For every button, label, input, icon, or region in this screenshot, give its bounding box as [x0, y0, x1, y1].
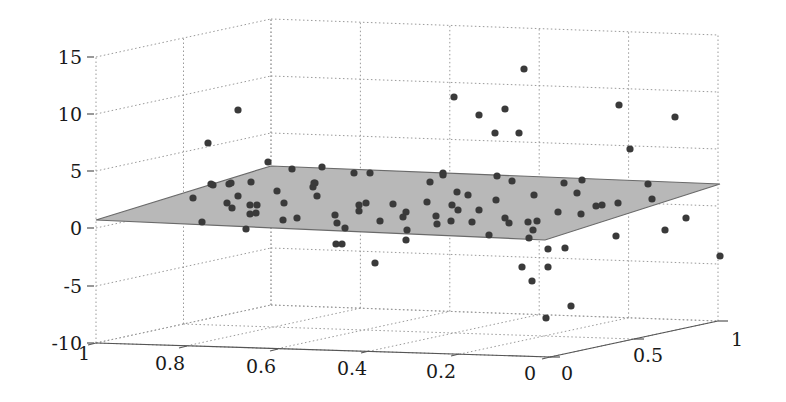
data-point: [485, 231, 492, 238]
data-point: [615, 101, 622, 108]
data-point: [399, 213, 406, 220]
data-point: [612, 232, 619, 239]
x-tick: [179, 346, 187, 348]
y-tick-label: 1: [731, 328, 743, 350]
data-point: [376, 217, 383, 224]
data-point: [338, 240, 345, 247]
x-tick-label: 0.8: [155, 352, 185, 374]
z-tick-label: 15: [58, 46, 82, 68]
data-point: [389, 200, 396, 207]
y-tick-label: 0: [561, 362, 573, 384]
right-wall-zgrid: [271, 76, 718, 92]
data-point: [355, 207, 362, 214]
data-point: [280, 199, 287, 206]
data-point: [313, 192, 320, 199]
data-point: [716, 252, 723, 259]
data-point: [253, 201, 260, 208]
data-point: [362, 199, 369, 206]
data-point: [318, 163, 325, 170]
right-wall-zgrid: [271, 248, 718, 264]
data-point: [234, 106, 241, 113]
data-point: [403, 226, 410, 233]
data-point: [493, 172, 500, 179]
data-point: [468, 218, 475, 225]
data-point: [426, 178, 433, 185]
data-point: [454, 206, 461, 213]
data-point: [530, 191, 537, 198]
data-point: [528, 277, 535, 284]
data-point: [515, 129, 522, 136]
data-point: [246, 201, 253, 208]
data-point: [644, 180, 651, 187]
data-point: [432, 212, 439, 219]
data-point: [439, 171, 446, 178]
data-point: [501, 105, 508, 112]
data-point: [246, 210, 253, 217]
data-point: [252, 209, 259, 216]
floor-grid: [368, 315, 539, 352]
data-point: [592, 202, 599, 209]
data-point: [560, 179, 567, 186]
data-point: [189, 194, 196, 201]
x-tick-label: 0: [524, 362, 536, 384]
data-point: [341, 224, 348, 231]
data-point: [520, 65, 527, 72]
scatter-3d-plot: 151050-5-1010.80.60.40.2000.51: [0, 0, 786, 402]
data-point: [577, 210, 584, 217]
data-point: [542, 314, 549, 321]
data-point: [567, 302, 574, 309]
z-tick-label: -5: [63, 275, 82, 297]
data-point: [242, 225, 249, 232]
data-point: [198, 218, 205, 225]
data-point: [529, 226, 536, 233]
data-point: [293, 214, 300, 221]
x-tick-label: 1: [78, 342, 90, 364]
z-tick-label: 0: [70, 217, 82, 239]
data-point: [505, 219, 512, 226]
data-point: [247, 178, 254, 185]
data-point: [682, 214, 689, 221]
data-point: [264, 158, 271, 165]
data-point: [475, 206, 482, 213]
data-point: [311, 179, 318, 186]
floor-grid: [278, 311, 450, 348]
floor-grid: [184, 324, 635, 339]
z-tick-label: 5: [70, 160, 82, 182]
data-point: [204, 139, 211, 146]
data-point: [573, 189, 580, 196]
x-tick-label: 0.2: [426, 360, 456, 382]
data-point: [508, 177, 515, 184]
data-point: [288, 165, 295, 172]
y-tick-label: 0.5: [633, 344, 663, 366]
data-point: [533, 217, 540, 224]
data-point: [598, 201, 605, 208]
data-point: [525, 234, 532, 241]
floor-grid: [271, 305, 718, 321]
data-point: [626, 145, 633, 152]
data-point: [671, 113, 678, 120]
data-point: [333, 219, 340, 226]
data-point: [350, 169, 357, 176]
data-point: [544, 245, 551, 252]
data-point: [227, 179, 234, 186]
x-tick-label: 0.4: [337, 357, 367, 379]
data-point: [518, 263, 525, 270]
data-point: [578, 176, 585, 183]
data-point: [209, 181, 216, 188]
data-point: [448, 201, 455, 208]
data-point: [524, 218, 531, 225]
data-point: [402, 236, 409, 243]
x-tick-label: 0.6: [246, 355, 276, 377]
floor-grid: [187, 308, 361, 346]
data-point: [648, 195, 655, 202]
data-point: [464, 191, 471, 198]
data-point: [453, 188, 460, 195]
right-wall-zgrid: [271, 19, 718, 35]
data-point: [475, 111, 482, 118]
data-point: [491, 129, 498, 136]
data-point: [447, 217, 454, 224]
data-point: [331, 211, 338, 218]
data-point: [433, 220, 440, 227]
data-point: [614, 199, 621, 206]
data-point: [561, 244, 568, 251]
